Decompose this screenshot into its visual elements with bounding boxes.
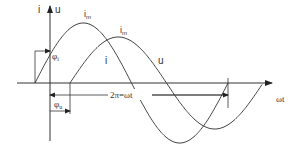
curve-label-u: u bbox=[158, 55, 164, 66]
phi-i-label: φi bbox=[52, 51, 59, 62]
peak-label-u: im bbox=[84, 9, 91, 20]
peak-label-i: im bbox=[120, 25, 127, 36]
curve-label-i: i bbox=[105, 55, 107, 66]
phi-u-label: φu bbox=[54, 99, 62, 110]
sine-phase-diagram: i u ωt im im i u φi φu 2π=ωt bbox=[0, 0, 302, 144]
axis-label-omega-t: ωt bbox=[276, 94, 285, 104]
axis-label-i: i bbox=[38, 4, 40, 15]
period-label: 2π=ωt bbox=[110, 90, 133, 100]
axis-label-u: u bbox=[55, 4, 61, 15]
